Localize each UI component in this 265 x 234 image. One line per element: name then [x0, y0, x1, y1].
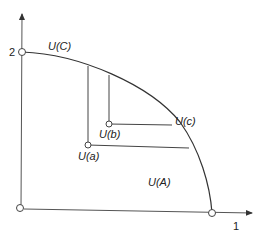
point-ub	[106, 121, 112, 127]
point-uc-top	[19, 49, 26, 56]
x-axis	[24, 209, 252, 213]
label-ub: U(b)	[99, 128, 121, 140]
y-tick-label: 2	[9, 46, 15, 58]
point-ua	[85, 142, 91, 148]
origin-point	[17, 205, 24, 212]
horizontal-line-b	[109, 124, 172, 125]
x-tick-label: 1	[233, 220, 239, 232]
label-ua: U(a)	[78, 150, 100, 162]
label-uc: U(C)	[48, 40, 72, 52]
y-axis	[21, 14, 22, 208]
utility-frontier-diagram: 2 1 U(C) U(a) U(b) U(c) U(A)	[0, 0, 265, 234]
label-region-ua: U(A)	[148, 176, 171, 188]
label-uc-lower: U(c)	[175, 115, 196, 127]
horizontal-line-a	[88, 145, 189, 148]
point-x-intercept	[209, 210, 216, 217]
